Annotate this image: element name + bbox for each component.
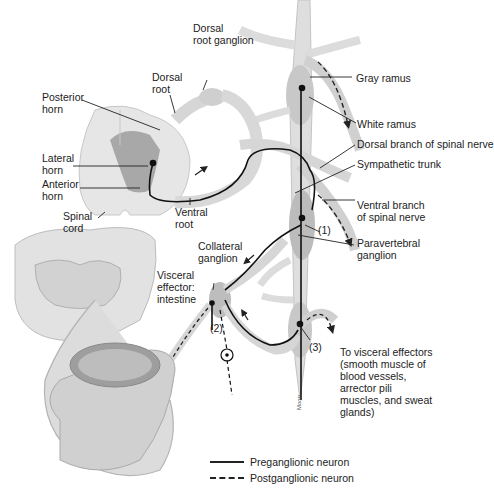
artist-credit: Moon bbox=[296, 395, 302, 410]
label-paravertebral-ganglion: Paravertebral ganglion bbox=[357, 237, 420, 261]
label-ventral-branch: Ventral branch of spinal nerve bbox=[357, 199, 425, 223]
legend-item-postganglionic: Postganglionic neuron bbox=[210, 472, 354, 484]
legend-item-preganglionic: Preganglionic neuron bbox=[210, 456, 349, 468]
legend-label: Postganglionic neuron bbox=[250, 472, 354, 484]
label-posterior-horn: Posterior horn bbox=[42, 91, 84, 115]
label-visceral-effector: Visceral effector: intestine bbox=[157, 269, 196, 305]
solid-line-swatch bbox=[210, 461, 244, 463]
label-pathway-2: (2) bbox=[210, 322, 223, 334]
label-collateral-ganglion: Collateral ganglion bbox=[198, 240, 242, 264]
paravertebral-ganglion-shape bbox=[289, 190, 315, 260]
label-dorsal-root-ganglion: Dorsal root ganglion bbox=[193, 22, 254, 46]
label-lateral-horn: Lateral horn bbox=[42, 152, 74, 176]
label-pathway-1: (1) bbox=[318, 224, 331, 236]
legend-label: Preganglionic neuron bbox=[250, 456, 349, 468]
dorsal-root-ganglion-shape bbox=[199, 88, 225, 106]
label-pathway-3: (3) bbox=[309, 341, 322, 353]
label-dorsal-branch: Dorsal branch of spinal nerve bbox=[357, 138, 494, 150]
label-anterior-horn: Anterior horn bbox=[42, 178, 79, 202]
dashed-line-swatch bbox=[210, 477, 244, 479]
label-dorsal-root: Dorsal root bbox=[152, 71, 182, 95]
label-white-ramus: White ramus bbox=[357, 118, 416, 130]
label-sympathetic-trunk: Sympathetic trunk bbox=[357, 158, 441, 170]
upper-spinal-nerve bbox=[305, 60, 360, 150]
label-ventral-root: Ventral root bbox=[175, 206, 208, 230]
spinal-cord-section bbox=[79, 106, 190, 215]
upper-paravertebral-ganglion bbox=[286, 65, 314, 125]
label-gray-ramus: Gray ramus bbox=[356, 72, 411, 84]
dorsal-root-shape bbox=[175, 100, 205, 120]
label-to-visceral-effectors: To visceral effectors (smooth muscle of … bbox=[340, 346, 433, 418]
intestine-illustration bbox=[15, 228, 175, 476]
label-spinal-cord: Spinal cord bbox=[63, 210, 92, 234]
